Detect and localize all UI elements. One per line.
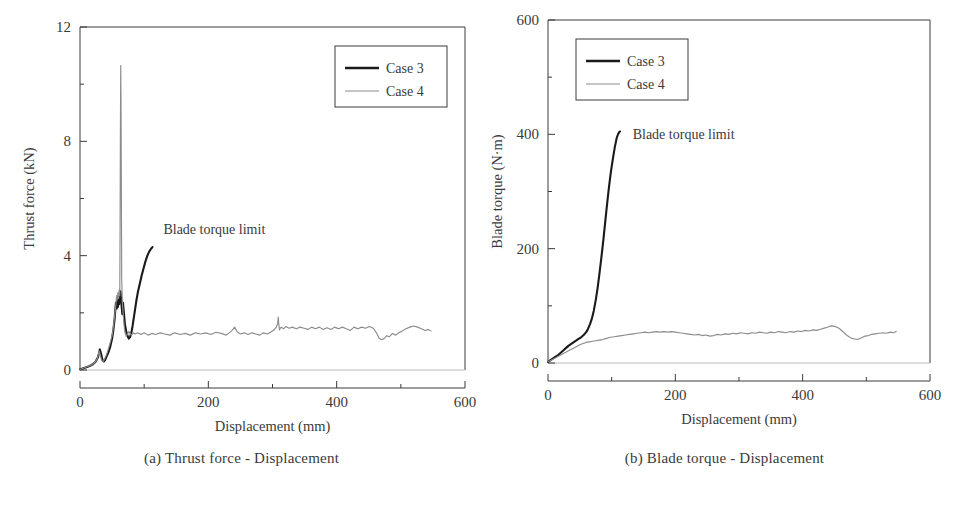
- x-axis-title: Displacement (mm): [681, 411, 797, 428]
- chart-blade-torque: 02004006000200400600Displacement (mm)Bla…: [483, 0, 966, 450]
- x-tick-label: 0: [76, 394, 84, 410]
- panel-thrust-force: 020040060004812Displacement (mm)Thrust f…: [0, 0, 483, 506]
- series-line-case-4: [548, 326, 896, 362]
- plot-frame: [80, 27, 465, 370]
- panel-blade-torque: 02004006000200400600Displacement (mm)Bla…: [483, 0, 966, 506]
- series-line-case-3: [548, 131, 620, 361]
- y-tick-label: 12: [56, 19, 71, 35]
- plot-frame: [548, 20, 930, 363]
- caption-panel-a: (a) Thrust force - Displacement: [0, 450, 483, 467]
- legend-label-case-3: Case 3: [627, 54, 665, 69]
- chart-thrust-force: 020040060004812Displacement (mm)Thrust f…: [0, 0, 483, 450]
- y-tick-label: 8: [64, 133, 72, 149]
- y-tick-label: 200: [517, 241, 540, 257]
- y-tick-label: 0: [532, 355, 540, 371]
- y-axis-title: Thrust force (kN): [21, 147, 38, 249]
- legend[interactable]: Case 3Case 4: [576, 39, 688, 100]
- caption-panel-b: (b) Blade torque - Displacement: [483, 450, 966, 467]
- x-tick-label: 200: [197, 394, 220, 410]
- y-tick-label: 600: [517, 12, 540, 28]
- x-tick-label: 200: [664, 387, 687, 403]
- y-tick-label: 4: [64, 248, 72, 264]
- legend-label-case-4: Case 4: [627, 77, 665, 92]
- y-tick-label: 0: [64, 362, 72, 378]
- y-tick-label: 400: [517, 126, 540, 142]
- x-tick-label: 0: [544, 387, 552, 403]
- legend-label-case-3: Case 3: [386, 61, 424, 76]
- x-tick-label: 400: [325, 394, 348, 410]
- legend[interactable]: Case 3Case 4: [335, 46, 447, 107]
- annotation-blade-torque-limit: Blade torque limit: [633, 127, 735, 142]
- x-tick-label: 600: [919, 387, 942, 403]
- x-tick-label: 400: [791, 387, 814, 403]
- y-axis-title: Blade torque (N·m): [489, 134, 506, 249]
- x-axis-title: Displacement (mm): [215, 418, 331, 435]
- legend-label-case-4: Case 4: [386, 84, 424, 99]
- annotation-blade-torque-limit: Blade torque limit: [163, 222, 265, 237]
- figure-container: 020040060004812Displacement (mm)Thrust f…: [0, 0, 966, 506]
- x-tick-label: 600: [454, 394, 477, 410]
- series-line-case-3: [80, 247, 153, 369]
